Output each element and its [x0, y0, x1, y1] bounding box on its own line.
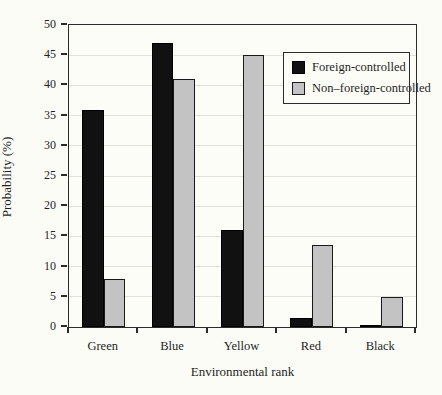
y-tick-mark-25 — [61, 174, 67, 176]
y-tick-mark-15 — [61, 234, 67, 236]
y-tick-mark-35 — [61, 114, 67, 116]
legend-label-foreign-controlled: Foreign-controlled — [312, 60, 406, 75]
bar-yellow-series-1 — [243, 55, 265, 327]
x-tick-mark-0 — [67, 327, 69, 333]
x-tick-mark-1 — [136, 327, 138, 333]
legend: Foreign-controlled Non–foreign-controlle… — [283, 52, 410, 104]
y-tick-mark-10 — [61, 265, 67, 267]
y-tick-label-50: 50 — [26, 17, 56, 31]
y-tick-mark-5 — [61, 295, 67, 297]
bar-chart-figure: Probability (%) 05101520253035404550Gree… — [0, 0, 442, 395]
y-tick-label-25: 25 — [26, 168, 56, 182]
bar-black-series-0 — [360, 325, 382, 327]
x-tick-mark-2 — [206, 327, 208, 333]
legend-item-non-foreign-controlled: Non–foreign-controlled — [292, 81, 401, 96]
y-tick-label-15: 15 — [26, 228, 56, 242]
y-tick-mark-20 — [61, 204, 67, 206]
bar-black-series-1 — [381, 297, 403, 327]
y-tick-label-5: 5 — [26, 289, 56, 303]
bar-green-series-1 — [104, 279, 126, 327]
bar-blue-series-0 — [152, 43, 174, 327]
y-tick-label-10: 10 — [26, 259, 56, 273]
y-tick-label-35: 35 — [26, 108, 56, 122]
y-tick-mark-50 — [61, 23, 67, 25]
x-category-label-black: Black — [345, 339, 415, 354]
x-tick-mark-3 — [275, 327, 277, 333]
y-tick-label-45: 45 — [26, 47, 56, 61]
bar-green-series-0 — [82, 110, 104, 327]
bar-blue-series-1 — [173, 79, 195, 327]
y-tick-label-30: 30 — [26, 138, 56, 152]
y-tick-mark-40 — [61, 83, 67, 85]
y-tick-mark-30 — [61, 144, 67, 146]
x-axis-title: Environmental rank — [68, 364, 417, 380]
legend-swatch-foreign-controlled — [292, 61, 305, 74]
x-category-label-green: Green — [68, 339, 138, 354]
x-category-label-blue: Blue — [137, 339, 207, 354]
legend-label-non-foreign-controlled: Non–foreign-controlled — [312, 81, 431, 96]
bar-red-series-0 — [290, 318, 312, 327]
legend-item-foreign-controlled: Foreign-controlled — [292, 60, 401, 75]
x-category-label-red: Red — [276, 339, 346, 354]
y-tick-label-20: 20 — [26, 198, 56, 212]
x-tick-mark-5 — [414, 327, 416, 333]
x-tick-mark-4 — [345, 327, 347, 333]
bar-red-series-1 — [312, 245, 334, 327]
y-tick-mark-45 — [61, 53, 67, 55]
x-category-label-yellow: Yellow — [207, 339, 277, 354]
legend-swatch-non-foreign-controlled — [292, 82, 305, 95]
y-tick-label-0: 0 — [26, 319, 56, 333]
bar-yellow-series-0 — [221, 230, 243, 327]
y-tick-label-40: 40 — [26, 77, 56, 91]
y-axis-title: Probability (%) — [0, 117, 15, 237]
